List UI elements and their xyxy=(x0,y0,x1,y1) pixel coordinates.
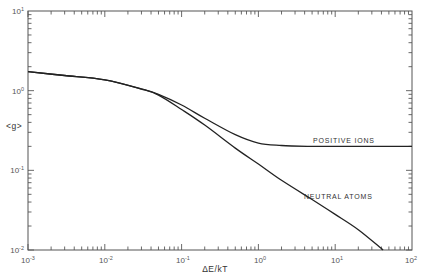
neutral-atoms-curve xyxy=(28,72,383,250)
y-tick-label-1e1: 101 xyxy=(12,6,24,16)
neutral-atoms-label: NEUTRAL ATOMS xyxy=(304,193,373,200)
x-tick-label-1e1: 101 xyxy=(331,255,343,265)
positive-ions-curve xyxy=(28,72,412,147)
x-tick-label-1e0: 100 xyxy=(254,255,266,265)
y-axis-title: <g> xyxy=(6,121,22,131)
x-axis-title: ΔE/kT xyxy=(202,264,228,274)
x-tick-label-1e-3: 10-3 xyxy=(21,255,35,265)
x-tick-label-1e-2: 10-2 xyxy=(99,255,113,265)
plot-frame xyxy=(28,11,412,250)
y-tick-label-1e-2: 10-2 xyxy=(10,245,24,255)
y-tick-label-1e0: 100 xyxy=(12,86,24,96)
positive-ions-label: POSITIVE IONS xyxy=(313,137,375,144)
x-tick-label-1e-1: 10-1 xyxy=(176,255,190,265)
axis-ticks xyxy=(28,11,412,250)
x-tick-label-1e2: 102 xyxy=(405,255,417,265)
log-log-chart: 101 100 10-1 10-2 10-3 10-2 10-1 100 101… xyxy=(0,0,425,275)
y-tick-label-1e-1: 10-1 xyxy=(10,165,24,175)
